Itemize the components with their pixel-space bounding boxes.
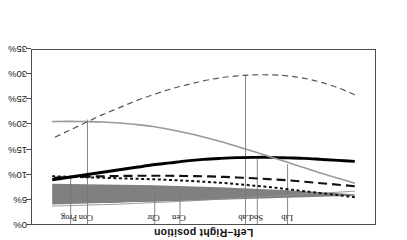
y-tick-label: 35% (8, 44, 27, 55)
y-tick-label: 15% (8, 144, 27, 155)
party-label-con: Con (79, 213, 93, 223)
y-tick-label: 5% (13, 194, 27, 205)
y-tick-label: 10% (8, 169, 27, 180)
series-line-thin-dashed-curve (52, 75, 355, 139)
party-label-soc: Soc (250, 213, 263, 223)
party-label-lib: Lib (281, 213, 293, 223)
plot-area: LibSocLabCenChrConProg (31, 49, 376, 225)
party-label-lab: Lab (238, 213, 251, 223)
x-axis-title: Left–Right position (0, 227, 407, 239)
party-label-cen: Cen (172, 213, 186, 223)
party-label-chr: Chr (147, 213, 160, 223)
chart-figure: Left–Right position Expected vote 123456… (0, 0, 407, 240)
y-tick-label: 20% (8, 119, 27, 130)
y-tick-label: 25% (8, 94, 27, 105)
party-label-prog: Prog (61, 213, 77, 223)
y-tick-label: 30% (8, 69, 27, 80)
chart-svg (32, 50, 375, 224)
y-tick-label: 0% (13, 220, 27, 231)
